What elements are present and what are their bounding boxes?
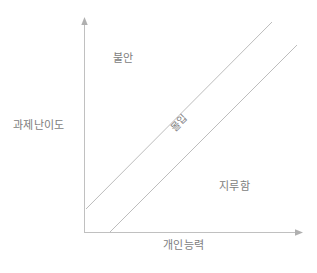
flow-diagram: 과제난이도 개인능력 불안 몰입 지루함 <box>0 0 317 273</box>
y-axis-label: 과제난이도 <box>13 119 65 133</box>
flow-channel-lower-line <box>110 45 297 232</box>
region-label-anxiety: 불안 <box>113 52 134 66</box>
diagram-canvas <box>0 0 317 273</box>
arrow-up-icon <box>81 17 87 25</box>
region-label-boredom: 지루함 <box>219 180 250 194</box>
x-axis-label: 개인능력 <box>163 239 204 253</box>
arrow-right-icon <box>295 229 303 235</box>
